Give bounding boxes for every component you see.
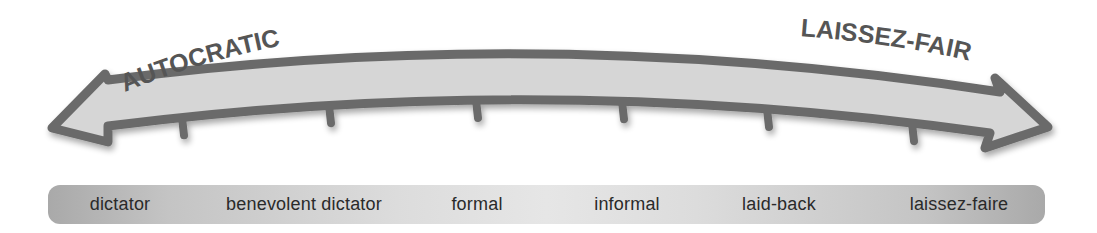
scale-label-laid-back: laid-back [742,194,816,215]
scale-label-benevolent-dictator: benevolent dictator [226,194,382,215]
scale-label-dictator: dictator [90,194,151,215]
scale-label-informal: informal [594,194,660,215]
leadership-style-scale-bar [48,185,1045,224]
scale-label-formal: formal [451,194,502,215]
scale-label-laissez-faire: laissez-faire [910,194,1009,215]
